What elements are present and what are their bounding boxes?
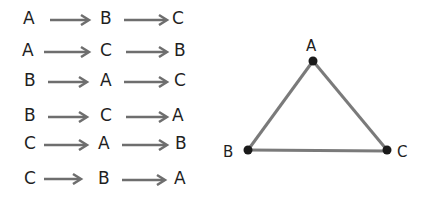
edge-a-b: [248, 61, 313, 150]
node-label-c: C: [397, 143, 407, 161]
node-label-b: B: [223, 143, 233, 161]
node-c: [383, 146, 392, 155]
triangle-graph: A B C: [0, 0, 432, 200]
node-label-a: A: [306, 37, 317, 55]
edge-b-c: [248, 150, 387, 151]
node-a: [309, 57, 318, 66]
edge-a-c: [313, 61, 387, 150]
node-b: [244, 146, 253, 155]
